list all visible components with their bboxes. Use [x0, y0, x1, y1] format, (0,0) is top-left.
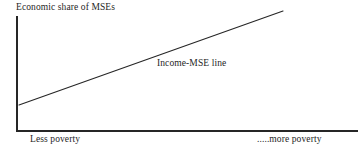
income-mse-line [19, 11, 283, 105]
y-axis-title: Economic share of MSEs [16, 2, 115, 13]
chart-canvas [0, 0, 362, 154]
x-axis-label-right: .....more poverty [257, 134, 322, 145]
x-axis-label-left: Less poverty [30, 134, 80, 145]
chart-figure: Economic share of MSEs Income-MSE line L… [0, 0, 362, 154]
series-annotation-income-mse-line: Income-MSE line [157, 58, 226, 69]
